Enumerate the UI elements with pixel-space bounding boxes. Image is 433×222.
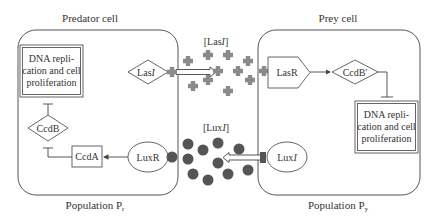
svg-text:LasI: LasI bbox=[137, 67, 155, 78]
prey-dna-box: DNA repli- cation and cell proliferation bbox=[355, 101, 418, 153]
prey-cell-title: Prey cell bbox=[319, 12, 358, 24]
luxi-node: LuxI bbox=[267, 142, 307, 172]
lasi-signal-label: [LasI] bbox=[204, 36, 228, 47]
luxi-signal-label: [LuxI] bbox=[203, 122, 229, 133]
luxi-export-pore bbox=[260, 152, 266, 163]
ccda-node: CcdA bbox=[72, 146, 102, 167]
prey-population-label: Population Py bbox=[308, 199, 369, 213]
svg-text:cation and cell: cation and cell bbox=[22, 65, 81, 76]
lux-molecules bbox=[167, 138, 254, 186]
svg-text:CcdB: CcdB bbox=[37, 123, 60, 134]
svg-text:LuxI: LuxI bbox=[277, 152, 297, 163]
predator-cell-title: Predator cell bbox=[62, 12, 118, 24]
svg-text:CcdA: CcdA bbox=[75, 151, 99, 162]
svg-text:proliferation: proliferation bbox=[27, 77, 77, 88]
predator-dna-box: DNA repli- cation and cell proliferation bbox=[20, 45, 83, 97]
svg-text:LuxR: LuxR bbox=[137, 152, 160, 163]
luxr-node: LuxR bbox=[128, 142, 168, 172]
svg-text:CcdB': CcdB' bbox=[343, 67, 368, 78]
svg-text:DNA repli-: DNA repli- bbox=[29, 53, 74, 64]
svg-text:DNA repli-: DNA repli- bbox=[364, 109, 409, 120]
svg-text:cation and cell: cation and cell bbox=[357, 121, 416, 132]
predator-population-label: Population Pr bbox=[66, 199, 126, 213]
svg-text:proliferation: proliferation bbox=[362, 133, 412, 144]
svg-text:LasR: LasR bbox=[276, 67, 297, 78]
predator-prey-diagram: Predator cell Prey cell Population Pr Po… bbox=[0, 0, 433, 222]
